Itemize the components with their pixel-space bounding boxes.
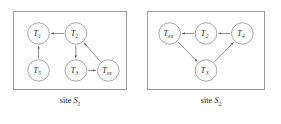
node-label-subscript: ex [107, 70, 112, 76]
arrow-head [37, 45, 39, 48]
node-t3[interactable]: T3 [195, 60, 217, 81]
caption-site-s1: site S1 [0, 96, 140, 107]
graph-site-s2: TexT2T4T3 [148, 12, 264, 89]
arrow-head [75, 55, 77, 58]
node-t1[interactable]: T1 [28, 23, 50, 44]
caption-word: site [60, 96, 72, 105]
edge-t2-t3 [75, 45, 77, 58]
node-label-subscript: 3 [206, 70, 209, 76]
node-label-subscript: 4 [242, 33, 245, 39]
edge-tex-t3 [178, 42, 198, 62]
caption-subscript: 1 [78, 101, 81, 107]
arrow-head [182, 32, 185, 34]
edge-line [178, 42, 195, 60]
edge-t4-t2 [218, 32, 230, 34]
graph-site-s1: T1T2T5T3Tex [14, 12, 126, 89]
caption-subscript: 2 [219, 101, 222, 107]
node-label-subscript: 3 [76, 70, 79, 76]
edge-line [86, 45, 101, 62]
node-t4[interactable]: T4 [232, 23, 254, 44]
node-t5[interactable]: T5 [28, 60, 50, 81]
arrow-head [218, 32, 221, 34]
edge-t5-t1 [37, 45, 39, 58]
node-label-subscript: 2 [206, 33, 209, 39]
edge-line [214, 44, 231, 62]
node-t2[interactable]: T2 [65, 23, 87, 44]
edge-t2-tex [182, 32, 194, 34]
edge-t2-t1 [51, 32, 64, 34]
node-t3[interactable]: T3 [65, 60, 87, 81]
figure-container: T1T2T5T3Tex site S1 TexT2T4T3 site S2 [0, 0, 281, 124]
caption-site-s2: site S2 [141, 96, 281, 107]
node-label-subscript: 1 [38, 33, 41, 39]
node-label-subscript: 5 [38, 70, 41, 76]
node-t2[interactable]: T2 [195, 23, 217, 44]
node-label-subscript: 2 [76, 33, 79, 39]
panel-site-s2: TexT2T4T3 [147, 11, 265, 90]
arrow-head [51, 32, 54, 34]
caption-word: site [201, 96, 213, 105]
node-tex[interactable]: Tex [98, 60, 120, 81]
panel-site-s1: T1T2T5T3Tex [13, 11, 127, 90]
arrow-head [93, 69, 96, 71]
node-label-subscript: ex [168, 33, 173, 39]
node-tex[interactable]: Tex [159, 23, 181, 44]
edge-t3-t4 [214, 42, 234, 62]
edge-t3-tex [88, 69, 96, 71]
edge-tex-t2 [84, 42, 101, 61]
